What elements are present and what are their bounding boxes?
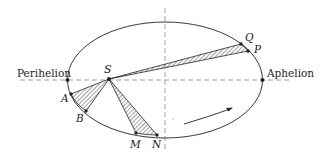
label-B: B bbox=[75, 112, 84, 124]
direction-arrow bbox=[184, 109, 230, 124]
sector-PQ bbox=[109, 44, 248, 79]
point-B bbox=[84, 109, 87, 112]
label-P: P bbox=[253, 43, 262, 55]
aphelion-point bbox=[261, 78, 265, 82]
point-M bbox=[134, 131, 137, 134]
sector-MN bbox=[109, 79, 157, 135]
label-A: A bbox=[60, 92, 69, 104]
point-P bbox=[246, 49, 249, 52]
aphelion-label: Aphelion bbox=[266, 67, 314, 79]
label-N: N bbox=[151, 138, 162, 150]
orbit-diagram: Perihelion Aphelion S A B M N Q P bbox=[0, 0, 322, 153]
arrowhead-icon bbox=[226, 108, 233, 112]
point-N bbox=[155, 133, 158, 136]
faint-dot bbox=[172, 118, 174, 120]
point-Q bbox=[239, 42, 242, 45]
label-Q: Q bbox=[245, 31, 254, 44]
point-A bbox=[69, 92, 72, 95]
sun-label: S bbox=[104, 63, 112, 76]
sun-point bbox=[107, 77, 111, 81]
label-M: M bbox=[129, 138, 141, 150]
perihelion-label: Perihelion bbox=[17, 67, 71, 79]
sector-AB bbox=[71, 79, 109, 111]
